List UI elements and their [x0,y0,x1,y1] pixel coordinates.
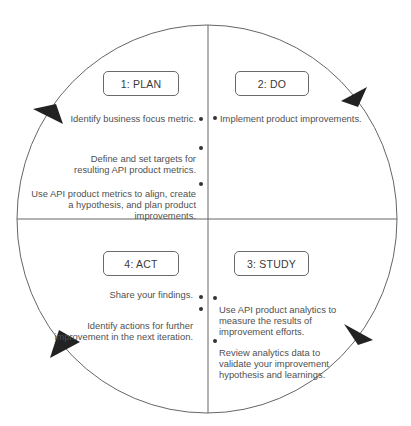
phase-box-do: 2: DO [235,71,309,96]
bullet-icon [213,296,217,300]
phase-box-study: 3: STUDY [234,251,309,276]
bullet-icon [199,295,203,299]
do-item-1-text: Implement product improvements. [220,113,362,124]
plan-item-3-text: Use API product metrics to align, create… [31,188,196,221]
bullet-icon [213,339,217,343]
phase-label-act: 4: ACT [124,258,157,270]
phase-label-study: 3: STUDY [247,258,296,270]
plan-item-3: Use API product metrics to align, create… [11,177,196,221]
study-item-1: Use API product analytics to measure the… [219,293,379,337]
study-item-2-text: Review analytics data to validate your i… [219,347,329,380]
plan-item-2: Define and set targets for resulting API… [26,142,196,175]
bullet-icon [199,182,203,186]
arrow-do-to-study-icon [341,87,367,107]
bullet-icon [213,116,217,120]
do-item-1: Implement product improvements. [220,113,390,124]
act-item-1: Share your findings. [23,289,193,300]
study-item-1-text: Use API product analytics to measure the… [219,304,336,337]
plan-item-2-text: Define and set targets for resulting API… [74,153,196,175]
bullet-icon [199,146,203,150]
plan-item-1-text: Identify business focus metric. [70,113,196,124]
phase-box-act: 4: ACT [103,251,179,276]
phase-label-do: 2: DO [258,78,286,90]
plan-item-1: Identify business focus metric. [26,113,196,124]
act-item-2-text: Identify actions for further improvement… [54,320,193,342]
act-item-2: Identify actions for further improvement… [18,309,193,342]
bullet-icon [199,117,203,121]
phase-box-plan: 1: PLAN [103,71,179,96]
study-item-2: Review analytics data to validate your i… [219,336,379,380]
phase-label-plan: 1: PLAN [121,78,162,90]
bullet-icon [199,307,203,311]
act-item-1-text: Share your findings. [110,289,193,300]
